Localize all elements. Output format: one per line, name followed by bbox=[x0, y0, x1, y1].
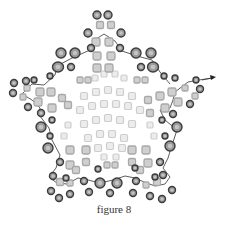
mid-bead bbox=[97, 22, 104, 29]
mid-bead bbox=[145, 97, 152, 104]
arrow-icon bbox=[202, 75, 216, 80]
inner-bead bbox=[125, 103, 132, 110]
inner-bead bbox=[113, 154, 119, 160]
mid-bead bbox=[147, 110, 154, 117]
mid-bead bbox=[24, 85, 30, 91]
mid-bead bbox=[174, 98, 182, 106]
mid-bead bbox=[192, 93, 198, 99]
inner-bead bbox=[113, 101, 120, 108]
mid-bead bbox=[134, 77, 140, 83]
mid-bead bbox=[65, 102, 72, 109]
mid-bead bbox=[77, 77, 83, 83]
mid-bead bbox=[85, 77, 91, 83]
mid-bead bbox=[48, 104, 56, 112]
inner-bead bbox=[117, 89, 124, 96]
mid-bead bbox=[161, 104, 169, 112]
mid-bead bbox=[66, 146, 74, 154]
inner-bead bbox=[65, 122, 71, 128]
mid-bead bbox=[142, 146, 150, 154]
mid-bead bbox=[82, 146, 90, 154]
mid-bead bbox=[57, 179, 64, 186]
mid-bead bbox=[182, 85, 188, 91]
inner-bead bbox=[121, 75, 127, 81]
inner-bead bbox=[81, 121, 88, 128]
inner-bead bbox=[89, 103, 96, 110]
inner-bead bbox=[85, 135, 92, 142]
inner-bead bbox=[107, 143, 114, 150]
inner-bead bbox=[61, 133, 67, 139]
mid-bead bbox=[168, 88, 176, 96]
mid-bead bbox=[144, 159, 152, 167]
inner-bead bbox=[81, 93, 88, 100]
inner-bead bbox=[129, 121, 136, 128]
mid-bead bbox=[47, 88, 55, 96]
mid-bead bbox=[36, 88, 44, 96]
mid-bead bbox=[108, 22, 115, 29]
inner-bead bbox=[121, 135, 128, 142]
inner-bead bbox=[129, 93, 136, 100]
mid-bead bbox=[73, 167, 80, 174]
inner-bead bbox=[151, 133, 157, 139]
inner-bead bbox=[95, 145, 102, 152]
mid-bead bbox=[128, 146, 136, 154]
beadwork-star-diagram bbox=[0, 0, 228, 227]
inner-bead bbox=[101, 154, 107, 160]
mid-bead bbox=[34, 98, 42, 106]
inner-bead bbox=[119, 145, 126, 152]
mid-bead bbox=[83, 159, 90, 166]
inner-bead bbox=[105, 115, 112, 122]
mid-bead bbox=[20, 94, 26, 100]
inner-bead bbox=[101, 101, 108, 108]
inner-bead bbox=[109, 131, 116, 138]
mid-bead bbox=[107, 52, 115, 60]
inner-bead bbox=[117, 117, 124, 124]
mid-bead bbox=[93, 52, 101, 60]
mid-bead bbox=[104, 162, 110, 168]
inner-bead bbox=[105, 87, 112, 94]
figure-caption: figure 8 bbox=[0, 203, 228, 215]
mid-bead bbox=[142, 77, 148, 83]
inner-bead bbox=[92, 75, 98, 81]
inner-bead bbox=[97, 131, 104, 138]
mid-bead bbox=[105, 38, 113, 46]
mid-bead bbox=[143, 182, 149, 188]
mid-bead bbox=[105, 64, 113, 72]
mid-bead bbox=[93, 64, 101, 72]
inner-bead bbox=[137, 107, 144, 114]
mid-bead bbox=[112, 162, 118, 168]
inner-bead bbox=[93, 89, 100, 96]
mid-bead bbox=[59, 95, 66, 102]
mid-bead bbox=[156, 92, 164, 100]
inner-bead bbox=[77, 107, 84, 114]
inner-bead bbox=[147, 122, 153, 128]
inner-bead bbox=[93, 117, 100, 124]
